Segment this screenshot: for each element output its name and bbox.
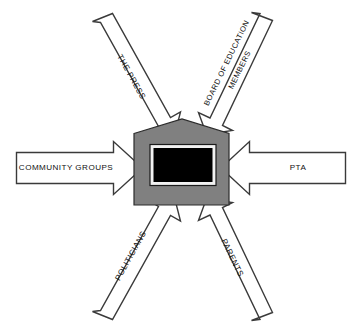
- school-building: [134, 119, 229, 205]
- arrow-politicians: POLITICIANS: [93, 198, 181, 320]
- arrow-the-press-shape: [93, 14, 181, 136]
- arrow-the-press: THE PRESS: [93, 14, 181, 136]
- arrow-community-groups: COMMUNITY GROUPS: [17, 142, 143, 195]
- arrow-pta-shape: [221, 142, 346, 195]
- arrow-pta-label: PTA: [290, 163, 307, 172]
- school-window: [154, 148, 213, 182]
- arrow-community-groups-label: COMMUNITY GROUPS: [19, 163, 113, 172]
- arrow-politicians-shape: [93, 198, 181, 320]
- arrow-board-of-education-members: BOARD OF EDUCATION MEMBERS: [199, 13, 273, 135]
- diagram-canvas: THE PRESS BOARD OF EDUCATION MEMBERS COM…: [0, 0, 362, 330]
- arrow-pta: PTA: [221, 142, 346, 195]
- stakeholder-pressure-diagram: THE PRESS BOARD OF EDUCATION MEMBERS COM…: [0, 0, 362, 330]
- arrow-parents: PARENTS: [199, 199, 273, 321]
